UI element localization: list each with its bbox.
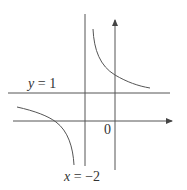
curve-branch-lower-left [17,107,74,165]
vertical-asymptote-label: x = −2 [63,169,100,184]
hyperbola-graph: y = 1 0 x = −2 [0,0,187,190]
curve-branch-upper-right [93,29,150,88]
horizontal-asymptote-label: y = 1 [26,76,56,91]
origin-label: 0 [104,122,111,137]
